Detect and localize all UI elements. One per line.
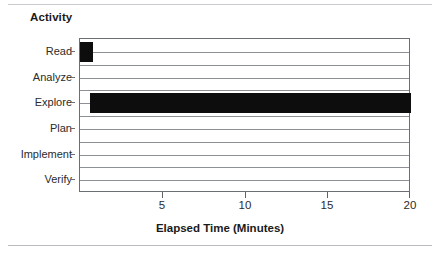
y-axis-label-verify: Verify xyxy=(44,173,72,185)
y-axis-labels: ReadAnalyzeExplorePlanImplementVerify xyxy=(0,38,75,192)
y-axis-tick xyxy=(71,102,75,103)
gridline xyxy=(80,142,409,143)
y-axis-tick xyxy=(71,179,75,180)
x-axis-tick xyxy=(409,192,410,198)
x-axis-tick-label: 20 xyxy=(404,199,417,211)
x-axis-tick-label: 15 xyxy=(321,199,334,211)
x-axis-ticks: 5101520 xyxy=(0,192,440,202)
x-axis-tick-label: 5 xyxy=(159,199,165,211)
x-axis-tick xyxy=(327,192,328,198)
page-title: Activity xyxy=(30,11,72,23)
y-axis-label-analyze: Analyze xyxy=(33,71,72,83)
y-axis-label-read: Read xyxy=(46,45,72,57)
gridline xyxy=(80,155,409,156)
bar-read xyxy=(80,42,93,63)
bottom-divider xyxy=(8,245,432,246)
plot-area xyxy=(79,38,410,192)
x-axis-tick xyxy=(162,192,163,198)
y-axis-tick xyxy=(71,77,75,78)
y-axis-tick xyxy=(71,154,75,155)
activity-gantt-chart: Activity ReadAnalyzeExplorePlanImplement… xyxy=(0,0,440,258)
gridline xyxy=(80,180,409,181)
gridline xyxy=(80,90,409,91)
gridline xyxy=(80,116,409,117)
y-axis-label-explore: Explore xyxy=(35,96,72,108)
x-axis-title: Elapsed Time (Minutes) xyxy=(0,222,440,234)
y-axis-tick xyxy=(71,51,75,52)
gridline xyxy=(80,78,409,79)
x-axis-tick xyxy=(245,192,246,198)
bar-explore xyxy=(90,93,411,114)
gridline xyxy=(80,65,409,66)
gridline xyxy=(80,52,409,53)
top-divider xyxy=(8,4,432,5)
y-axis-label-plan: Plan xyxy=(50,122,72,134)
x-axis-tick-label: 10 xyxy=(239,199,252,211)
y-axis-label-implement: Implement xyxy=(21,148,72,160)
gridline xyxy=(80,129,409,130)
gridline xyxy=(80,167,409,168)
y-axis-tick xyxy=(71,128,75,129)
